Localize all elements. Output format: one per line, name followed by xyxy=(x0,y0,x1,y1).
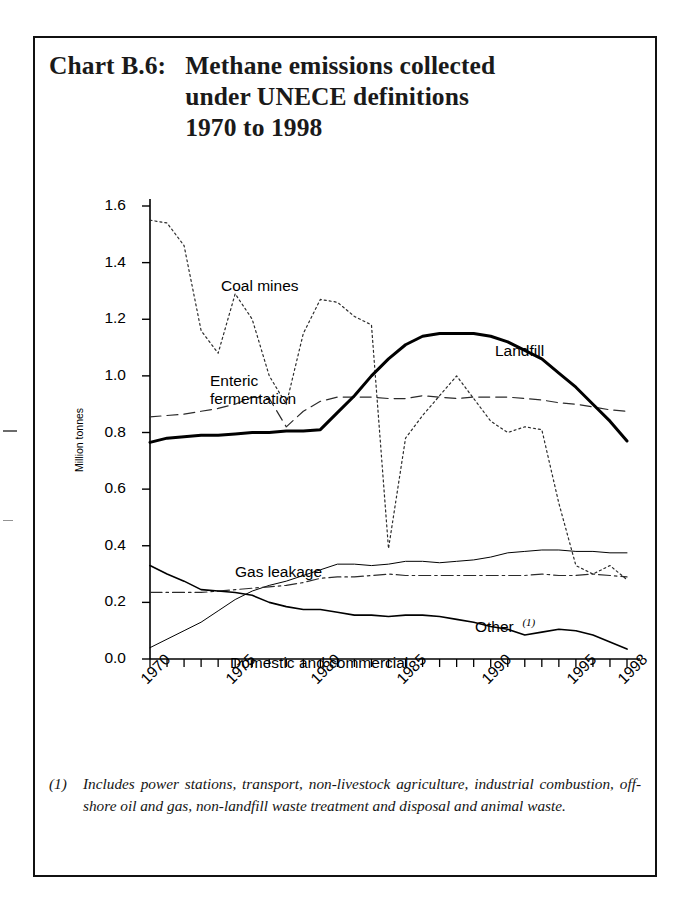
series-label-domestic-and-commercial: Domestic and commercial xyxy=(230,654,408,672)
scan-artifact xyxy=(3,430,17,432)
plot-area: Million tonnes 0.00.20.40.60.81.01.21.41… xyxy=(35,38,655,875)
series-line-other xyxy=(150,574,627,592)
y-tick-label: 0.0 xyxy=(84,649,126,667)
y-tick-label: 0.2 xyxy=(84,592,126,610)
y-tick-label: 1.6 xyxy=(84,196,126,214)
series-label-gas-leakage: Gas leakage xyxy=(235,563,322,581)
series-line-gas-leakage xyxy=(150,550,627,648)
footnote-marker: (1) xyxy=(49,773,67,795)
series-label-other: Other (1) xyxy=(475,616,535,636)
series-label-enteric-fermentation: Entericfermentation xyxy=(210,372,296,407)
y-tick-label: 1.2 xyxy=(84,309,126,327)
figure-frame: Chart B.6: Methane emissions collected u… xyxy=(33,36,657,877)
y-tick-label: 0.8 xyxy=(84,423,126,441)
footnote-text: Includes power stations, transport, non-… xyxy=(49,773,641,817)
y-tick-label: 1.0 xyxy=(84,366,126,384)
scan-artifact-secondary xyxy=(3,520,13,521)
y-tick-label: 0.4 xyxy=(84,536,126,554)
chart-canvas xyxy=(35,38,655,875)
series-label-coal-mines: Coal mines xyxy=(221,277,299,295)
y-tick-label: 0.6 xyxy=(84,479,126,497)
footnote: (1) Includes power stations, transport, … xyxy=(49,773,641,817)
y-tick-label: 1.4 xyxy=(84,253,126,271)
series-label-landfill: Landfill xyxy=(495,342,544,360)
series-line-domestic-and-commercial xyxy=(150,566,627,650)
